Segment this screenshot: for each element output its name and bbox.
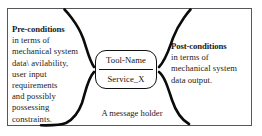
pre-conditions-line-1: in terms of — [12, 35, 90, 46]
pre-conditions-heading: Pre-conditions — [12, 24, 90, 35]
tool-node: Tool-Name Service_X — [95, 50, 157, 89]
post-conditions-line-3: data output. — [171, 75, 255, 86]
post-conditions-line-2: mechanical system — [171, 63, 255, 74]
pre-conditions-line-2: mechanical system — [12, 46, 90, 57]
post-conditions-text-block: Post-conditions in terms of mechanical s… — [171, 41, 255, 86]
pre-conditions-line-3: data\ avilability, — [12, 58, 90, 69]
pre-conditions-line-8: constraints. — [12, 114, 90, 125]
post-conditions-line-1: in terms of — [171, 52, 255, 63]
tool-name-label: Tool-Name — [96, 51, 156, 69]
pre-conditions-line-5: requirements — [12, 80, 90, 91]
diagram-canvas: Pre-conditions in terms of mechanical sy… — [0, 0, 262, 136]
pre-conditions-line-4: user input — [12, 69, 90, 80]
pre-conditions-line-7: possessing — [12, 102, 90, 113]
pre-conditions-text-block: Pre-conditions in terms of mechanical sy… — [12, 24, 90, 125]
pre-conditions-line-6: and possibly — [12, 91, 90, 102]
service-name-label: Service_X — [96, 70, 156, 88]
post-conditions-heading: Post-conditions — [171, 41, 255, 52]
message-holder-caption: A message holder — [84, 108, 180, 118]
